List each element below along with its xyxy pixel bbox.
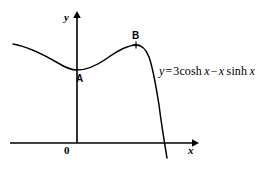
point-a-label: A (76, 74, 83, 84)
equation-sinh: sinh (227, 64, 247, 78)
equation-annotation: y=3cosh x−x sinh x (159, 65, 255, 77)
y-axis-arrowhead (73, 11, 81, 18)
function-curve (13, 44, 167, 158)
x-axis (10, 139, 199, 147)
point-b-label: B (132, 31, 139, 41)
origin-label: 0 (64, 145, 70, 156)
point-b-marker (133, 42, 140, 49)
equation-sinh-argument: x (250, 64, 255, 78)
equation-equals: = (164, 64, 173, 78)
equation-cosh: cosh (179, 64, 201, 78)
equation-sinh-coefficient: x (219, 64, 224, 78)
y-axis-label: y (64, 12, 69, 23)
equation-cosh-argument: x (204, 64, 209, 78)
equation-minus: − (210, 64, 219, 78)
x-axis-label: x (188, 145, 194, 156)
graph-figure: y x 0 A B y=3cosh x−x sinh x (0, 0, 272, 170)
plot-canvas (0, 0, 272, 170)
